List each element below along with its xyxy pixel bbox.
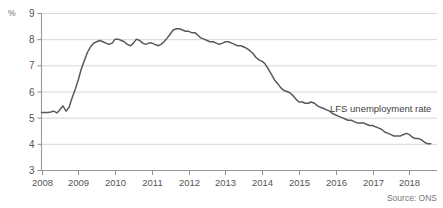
x-tick-label: 2009: [68, 177, 89, 188]
y-tick-label: 7: [29, 60, 35, 71]
y-tick-labels: 3456789: [29, 8, 35, 176]
x-tick-label: 2011: [142, 177, 162, 188]
x-tick-label: 2012: [179, 177, 200, 188]
x-tick-label: 2010: [105, 177, 126, 188]
chart-canvas: % 3456789 200820092010201120122013201420…: [0, 0, 443, 208]
y-tick-label: 4: [29, 139, 35, 150]
x-tick-label: 2013: [215, 177, 236, 188]
y-tick-label: 8: [29, 34, 35, 45]
series-inline-label: LFS unemployment rate: [330, 103, 431, 114]
x-tick-label: 2018: [399, 177, 420, 188]
lfs-unemployment-rate-line: [42, 29, 431, 144]
source-note: Source: ONS: [387, 193, 437, 203]
y-tick-label: 6: [29, 87, 35, 98]
x-tick-label: 2015: [289, 177, 310, 188]
y-tick-label: 9: [29, 8, 35, 19]
y-tick-label: 5: [29, 113, 35, 124]
unemployment-rate-chart: % 3456789 200820092010201120122013201420…: [0, 0, 443, 208]
x-tick-labels: 2008200920102011201220132014201520162017…: [32, 177, 420, 188]
y-tick-label: 3: [29, 165, 35, 176]
x-tick-label: 2016: [326, 177, 347, 188]
gridlines: [42, 14, 438, 145]
y-axis-unit-label: %: [8, 8, 16, 18]
x-tick-label: 2017: [363, 177, 384, 188]
x-tick-marks: [43, 171, 410, 175]
y-tick-marks: [38, 14, 42, 171]
x-tick-label: 2014: [252, 177, 273, 188]
x-tick-label: 2008: [32, 177, 53, 188]
